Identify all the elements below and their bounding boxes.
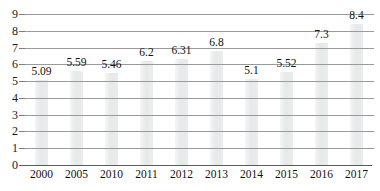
y-axis-tick-label: 2 [4, 125, 18, 137]
bar [70, 71, 83, 165]
gridline [24, 98, 368, 99]
gridline-end-tick [368, 64, 374, 65]
gridline [24, 14, 368, 15]
y-axis-tick-label: 8 [4, 25, 18, 37]
y-axis-tick-mark [19, 81, 25, 82]
x-axis-tick-label: 2014 [232, 168, 272, 180]
x-axis-tick-label: 2005 [57, 168, 97, 180]
y-axis-tick-mark [19, 98, 25, 99]
gridline [24, 81, 368, 82]
gridline-end-tick [368, 115, 374, 116]
x-axis-line [24, 165, 372, 166]
y-axis-tick-mark [19, 165, 25, 166]
y-axis-tick-mark [19, 131, 25, 132]
x-axis-tick-label: 2010 [92, 168, 132, 180]
y-axis-tick-label: 6 [4, 58, 18, 70]
gridline-end-tick [368, 31, 374, 32]
gridline [24, 115, 368, 116]
gridline-end-tick [368, 148, 374, 149]
x-axis-tick-label: 2015 [267, 168, 307, 180]
bar [315, 43, 328, 165]
x-axis-tick-label: 2011 [127, 168, 167, 180]
y-axis-tick-label: 3 [4, 109, 18, 121]
x-axis-tick-label: 2017 [337, 168, 377, 180]
bar-value-label: 5.09 [22, 66, 62, 78]
y-axis-tick-mark [19, 115, 25, 116]
bar-value-label: 6.8 [197, 37, 237, 49]
bar [35, 80, 48, 165]
gridline-end-tick [368, 98, 374, 99]
bar [105, 73, 118, 165]
y-axis-tick-mark [19, 31, 25, 32]
y-axis-tick-mark [19, 14, 25, 15]
y-axis-tick-label: 0 [4, 159, 18, 171]
gridline [24, 131, 368, 132]
bar [140, 61, 153, 165]
bar-value-label: 8.4 [337, 10, 377, 22]
gridline-end-tick [368, 131, 374, 132]
gridline-end-tick [368, 48, 374, 49]
x-axis-tick-label: 2016 [302, 168, 342, 180]
y-axis-tick-label: 7 [4, 42, 18, 54]
bar-value-label: 5.59 [57, 57, 97, 69]
y-axis-tick-mark [19, 48, 25, 49]
gridline-end-tick [368, 81, 374, 82]
y-axis-tick-label: 9 [4, 8, 18, 20]
gridline [24, 148, 368, 149]
bar [245, 79, 258, 165]
x-axis-tick-label: 2000 [22, 168, 62, 180]
y-axis-tick-label: 4 [4, 92, 18, 104]
y-axis-tick-mark [19, 148, 25, 149]
bar-value-label: 5.52 [267, 58, 307, 70]
y-axis-tick-label: 5 [4, 75, 18, 87]
bar-value-label: 7.3 [302, 29, 342, 41]
x-axis-tick-label: 2013 [197, 168, 237, 180]
bar [350, 24, 363, 165]
bar-value-label: 6.2 [127, 47, 167, 59]
bar [280, 72, 293, 165]
bar-chart: 01234567895.0920005.5920055.4620106.2201… [0, 0, 380, 191]
y-axis-tick-label: 1 [4, 142, 18, 154]
bar-value-label: 5.46 [92, 59, 132, 71]
x-axis-tick-label: 2012 [162, 168, 202, 180]
bar-value-label: 5.1 [232, 65, 272, 77]
bar-value-label: 6.31 [162, 45, 202, 57]
